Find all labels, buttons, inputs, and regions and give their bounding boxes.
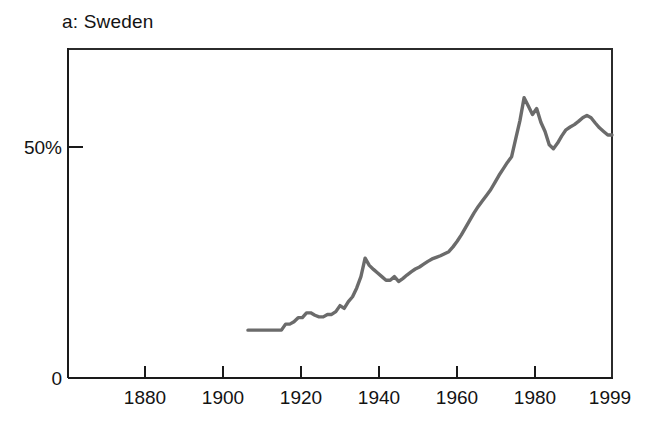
x-tick-label-1920: 1920 [280, 387, 322, 408]
x-tick-label-1960: 1960 [436, 387, 478, 408]
y-axis-tick-labels: 50% 0 [24, 137, 62, 389]
x-tick-label-1900: 1900 [202, 387, 244, 408]
y-tick-label-0: 0 [51, 368, 62, 389]
series-line-sweden [248, 98, 612, 330]
x-axis-tick-labels: 1880 1900 1920 1940 1960 1980 1999 [124, 387, 631, 408]
x-tick-label-1880: 1880 [124, 387, 166, 408]
figure-panel: a: Sweden 50% 0 1880 1900 [0, 0, 655, 440]
x-tick-label-1999: 1999 [589, 387, 631, 408]
line-chart: 50% 0 1880 1900 1920 1940 1960 1980 1999 [0, 0, 655, 440]
x-tick-label-1980: 1980 [514, 387, 556, 408]
y-tick-label-50: 50% [24, 137, 62, 158]
plot-frame [68, 49, 612, 378]
x-tick-label-1940: 1940 [358, 387, 400, 408]
x-axis-ticks [145, 366, 535, 378]
